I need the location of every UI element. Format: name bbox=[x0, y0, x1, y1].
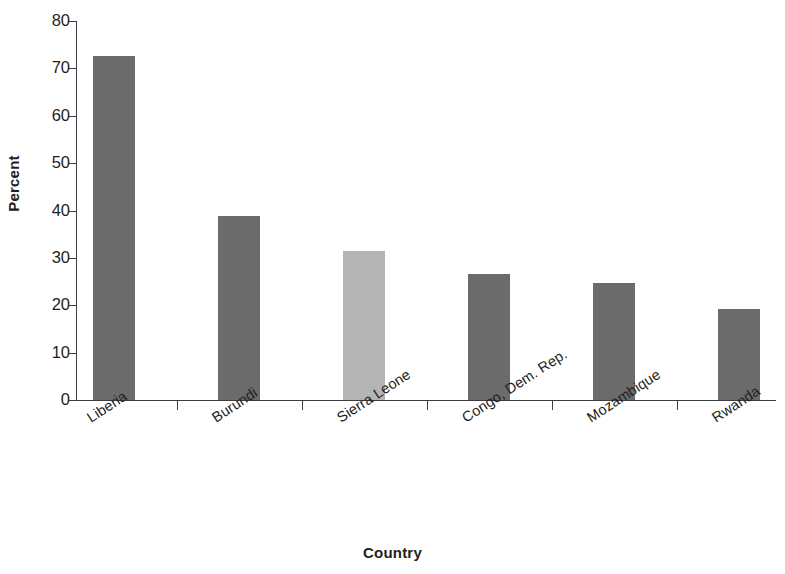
y-tick-label: 40 bbox=[52, 201, 70, 220]
y-tick: 40 bbox=[76, 211, 77, 212]
bar-chart: Percent 01020304050607080 LiberiaBurundi… bbox=[0, 0, 785, 574]
y-tick-mark bbox=[69, 211, 77, 212]
x-axis-category-labels: LiberiaBurundiSierra LeoneCongo, Dem. Re… bbox=[76, 404, 785, 544]
y-tick-mark bbox=[69, 68, 77, 69]
y-tick: 70 bbox=[76, 68, 77, 69]
y-tick-mark bbox=[69, 400, 77, 401]
y-tick: 60 bbox=[76, 116, 77, 117]
y-tick-mark bbox=[69, 258, 77, 259]
y-tick-label: 80 bbox=[52, 11, 70, 30]
y-tick-mark bbox=[69, 353, 77, 354]
y-tick-mark bbox=[69, 116, 77, 117]
y-tick-mark bbox=[69, 163, 77, 164]
y-tick-label: 0 bbox=[61, 390, 70, 409]
y-tick: 10 bbox=[76, 353, 77, 354]
y-tick-label: 10 bbox=[52, 343, 70, 362]
y-tick: 80 bbox=[76, 21, 77, 22]
y-tick: 0 bbox=[76, 400, 77, 401]
y-tick: 30 bbox=[76, 258, 77, 259]
x-axis-title: Country bbox=[0, 544, 785, 561]
y-tick-mark bbox=[69, 305, 77, 306]
y-tick-label: 60 bbox=[52, 106, 70, 125]
y-axis-title: Percent bbox=[5, 139, 22, 229]
bar bbox=[93, 56, 135, 400]
bar bbox=[218, 216, 260, 400]
y-tick-label: 50 bbox=[52, 153, 70, 172]
bar bbox=[468, 274, 510, 400]
y-tick: 50 bbox=[76, 163, 77, 164]
y-tick-label: 70 bbox=[52, 58, 70, 77]
bar bbox=[343, 251, 385, 400]
plot-area: 01020304050607080 bbox=[76, 21, 776, 401]
y-tick-mark bbox=[69, 21, 77, 22]
y-tick-label: 20 bbox=[52, 295, 70, 314]
y-tick-label: 30 bbox=[52, 248, 70, 267]
y-tick: 20 bbox=[76, 305, 77, 306]
